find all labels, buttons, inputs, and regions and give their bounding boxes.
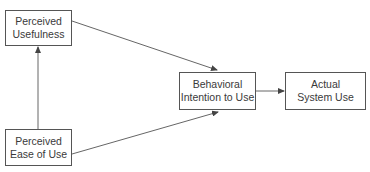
node-actual-system-use: Actual System Use bbox=[285, 72, 366, 110]
node-label-line2: System Use bbox=[297, 91, 354, 104]
node-perceived-ease-of-use: Perceived Ease of Use bbox=[5, 129, 72, 166]
node-label-line2: Usefulness bbox=[13, 28, 65, 41]
node-perceived-usefulness: Perceived Usefulness bbox=[5, 10, 72, 46]
tam-diagram: Perceived Usefulness Perceived Ease of U… bbox=[0, 0, 370, 172]
node-label-line1: Behavioral bbox=[181, 78, 255, 91]
node-label-line1: Perceived bbox=[10, 135, 67, 148]
edge-usefulness-to-intention bbox=[72, 21, 217, 70]
node-label-line1: Perceived bbox=[13, 15, 65, 28]
node-label-line2: Ease of Use bbox=[10, 148, 67, 161]
node-label-line2: Intention to Use bbox=[181, 91, 255, 104]
edge-ease-to-intention bbox=[72, 112, 218, 154]
node-behavioral-intention: Behavioral Intention to Use bbox=[179, 72, 256, 110]
node-label-line1: Actual bbox=[297, 78, 354, 91]
